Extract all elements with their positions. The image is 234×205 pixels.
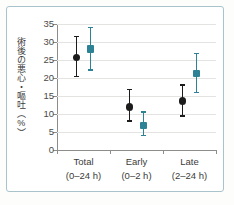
y-tick-label: 25: [43, 55, 54, 65]
data-point-marker: [179, 97, 187, 105]
x-tick-mark: [110, 150, 111, 154]
data-point-marker: [73, 54, 81, 62]
y-tick-label: 30: [43, 37, 54, 47]
gridline: [57, 150, 216, 151]
y-tick-label: 35: [43, 19, 54, 29]
x-axis-category-label: Early(0–2 h): [121, 155, 151, 183]
data-point-marker: [87, 45, 95, 53]
y-axis-title: 術後の悪心・嘔吐（%）: [16, 24, 30, 150]
chart-figure: 術後の悪心・嘔吐（%） 05101520253035 Total(0–24 h)…: [0, 0, 234, 205]
x-tick-mark: [216, 150, 217, 154]
x-axis-category-range: (2–24 h): [172, 169, 207, 183]
x-axis-category-name: Total: [73, 156, 93, 167]
error-bar-cap-lower: [74, 76, 79, 77]
x-axis-category-label: Late(2–24 h): [172, 155, 207, 183]
error-bar-cap-lower: [127, 120, 132, 121]
y-tick-label: 15: [43, 91, 54, 101]
error-bar-cap-lower: [180, 115, 185, 116]
data-point-marker: [193, 70, 201, 78]
error-bar-cap-upper: [180, 84, 185, 85]
x-axis-category-name: Early: [126, 156, 148, 167]
error-bar-cap-upper: [127, 89, 132, 90]
error-bar-cap-upper: [74, 36, 79, 37]
y-tick-label: 10: [43, 109, 54, 119]
x-axis-labels: Total(0–24 h)Early(0–2 h)Late(2–24 h): [57, 155, 217, 193]
error-bar-cap-lower: [194, 92, 199, 93]
x-tick-mark: [163, 150, 164, 154]
error-bar-cap-lower: [88, 69, 93, 70]
y-tick-label: 5: [49, 127, 54, 137]
data-point-marker: [140, 122, 148, 130]
error-bar-cap-upper: [88, 27, 93, 28]
y-tick-label: 20: [43, 73, 54, 83]
data-point-marker: [126, 103, 134, 111]
x-tick-mark: [57, 150, 58, 154]
x-axis-category-label: Total(0–24 h): [66, 155, 101, 183]
x-axis-category-name: Late: [180, 156, 199, 167]
plot-area: [57, 24, 216, 150]
x-axis-category-range: (0–24 h): [66, 169, 101, 183]
error-bar-cap-upper: [194, 53, 199, 54]
error-bar-cap-lower: [141, 135, 146, 136]
error-bar-cap-upper: [141, 111, 146, 112]
y-tick-label: 0: [49, 145, 54, 155]
x-axis-category-range: (0–2 h): [121, 169, 151, 183]
